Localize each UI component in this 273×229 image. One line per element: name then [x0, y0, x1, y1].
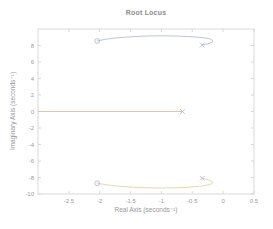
x-tick-label: -0.5 — [187, 198, 198, 204]
y-tick-label: -2 — [29, 125, 35, 131]
y-tick-label: 0 — [31, 109, 35, 115]
y-tick-label: 2 — [31, 92, 35, 98]
x-tick-label: 0.5 — [250, 198, 259, 204]
y-tick-label: 6 — [31, 59, 35, 65]
root-locus-figure-window: Root Locus -2.5-2-1.5-1-0.500.586420-2-4… — [0, 0, 273, 229]
root-locus-plot: -2.5-2-1.5-1-0.500.586420-2-4-6-8-10 — [0, 0, 273, 229]
branch-lower — [97, 178, 213, 188]
y-tick-label: -8 — [29, 175, 35, 181]
y-axis-ticks: 86420-2-4-6-8-10 — [25, 43, 254, 198]
y-tick-label: -10 — [25, 191, 34, 197]
branch-upper — [97, 36, 213, 45]
y-tick-label: -6 — [29, 158, 35, 164]
x-tick-label: -1 — [159, 198, 165, 204]
y-axis-label: Imaginary Axis (seconds⁻¹) — [9, 72, 17, 150]
y-tick-label: 4 — [31, 76, 35, 82]
y-tick-label: -4 — [29, 142, 35, 148]
y-tick-label: 8 — [31, 43, 35, 49]
pole-markers — [180, 43, 205, 181]
zero-markers — [95, 39, 100, 186]
x-axis-ticks: -2.5-2-1.5-1-0.500.5 — [64, 29, 259, 204]
locus-branches — [38, 36, 213, 188]
x-tick-label: 0 — [221, 198, 225, 204]
x-tick-label: -2 — [97, 198, 103, 204]
x-axis-label: Real Axis (seconds⁻¹) — [38, 206, 254, 214]
x-tick-label: -1.5 — [125, 198, 136, 204]
x-tick-label: -2.5 — [64, 198, 75, 204]
